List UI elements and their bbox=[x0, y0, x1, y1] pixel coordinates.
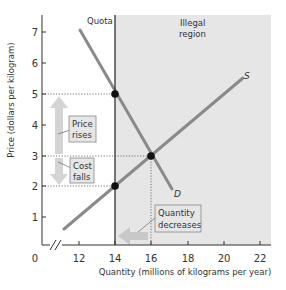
point-price-with-quota bbox=[111, 90, 119, 98]
price-rises-arrow-icon bbox=[50, 96, 68, 154]
svg-text:falls: falls bbox=[73, 172, 91, 182]
svg-text:5: 5 bbox=[32, 89, 38, 100]
demand-label: D bbox=[174, 189, 181, 199]
svg-text:Quantity: Quantity bbox=[158, 208, 195, 218]
svg-text:18: 18 bbox=[182, 253, 195, 264]
svg-text:0: 0 bbox=[32, 253, 38, 264]
illegal-region-label: Illegal bbox=[180, 18, 205, 28]
svg-text:14: 14 bbox=[109, 253, 122, 264]
cost-falls-arrow-icon bbox=[50, 158, 68, 185]
illegal-region-label-2: region bbox=[179, 29, 206, 39]
svg-text:1: 1 bbox=[32, 212, 38, 223]
svg-text:16: 16 bbox=[145, 253, 158, 264]
svg-text:2: 2 bbox=[32, 181, 38, 192]
svg-text:Cost: Cost bbox=[73, 161, 93, 171]
svg-text:22: 22 bbox=[254, 253, 267, 264]
supply-label: S bbox=[244, 71, 250, 81]
x-tick-labels: 0 12 14 16 18 20 22 bbox=[32, 253, 267, 264]
svg-text:3: 3 bbox=[32, 151, 38, 162]
y-axis-title: Price (dollars per kilogram) bbox=[6, 42, 16, 157]
svg-text:7: 7 bbox=[32, 27, 38, 38]
point-cost-with-quota bbox=[111, 182, 119, 190]
x-axis-title: Quantity (millions of kilograms per year… bbox=[99, 267, 272, 277]
axis-break-icon bbox=[50, 240, 62, 250]
svg-text:20: 20 bbox=[218, 253, 231, 264]
y-tick-labels: 7 6 5 4 3 2 1 bbox=[32, 27, 38, 223]
quota-label: Quota bbox=[87, 16, 113, 26]
price-rises-label: Price rises bbox=[58, 116, 96, 142]
quota-chart: Price rises Cost falls Quantity decrease… bbox=[0, 0, 286, 290]
svg-text:6: 6 bbox=[32, 58, 38, 69]
svg-text:4: 4 bbox=[32, 120, 38, 131]
svg-text:Price: Price bbox=[72, 119, 93, 129]
point-equilibrium bbox=[147, 152, 155, 160]
svg-text:12: 12 bbox=[73, 253, 86, 264]
svg-text:decreases: decreases bbox=[158, 220, 202, 230]
svg-text:rises: rises bbox=[72, 130, 93, 140]
